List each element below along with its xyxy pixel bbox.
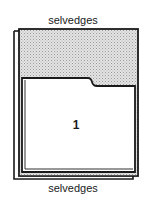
panel-number: 1	[66, 118, 86, 132]
fabric-layout-diagram	[0, 0, 146, 203]
bottom-selvedges-label: selvedges	[0, 182, 146, 194]
